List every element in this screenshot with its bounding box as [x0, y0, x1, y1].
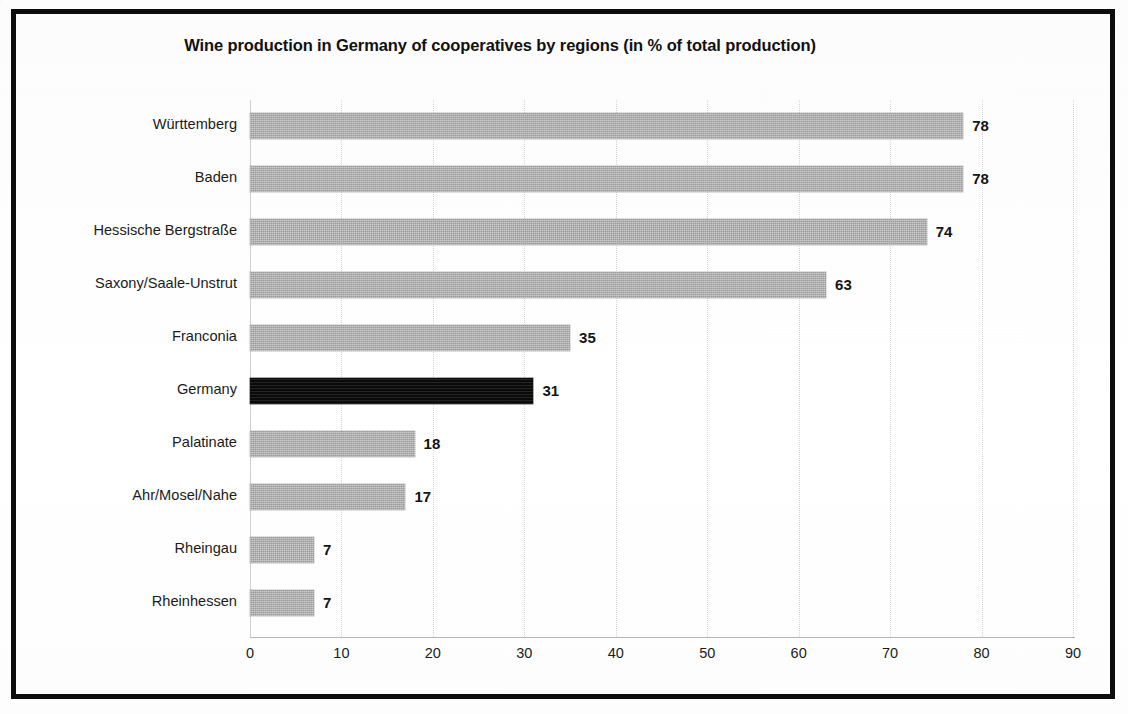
bar-value-label: 74: [936, 223, 953, 240]
bar: [250, 113, 963, 139]
bar: [250, 325, 570, 351]
category-label: Palatinate: [5, 434, 237, 450]
bar: [250, 431, 415, 457]
category-label: Franconia: [5, 328, 237, 344]
bar-value-label: 7: [323, 594, 331, 611]
x-tick-label-90: 90: [1053, 645, 1093, 661]
bar-value-label: 7: [323, 541, 331, 558]
bar-row: Saxony/Saale-Unstrut63: [250, 259, 1073, 312]
category-label: Rheingau: [5, 540, 237, 556]
bar-row: Baden78: [250, 153, 1073, 206]
plot-area: Württemberg78Baden78Hessische Bergstraße…: [250, 100, 1073, 637]
bar-value-label: 17: [414, 488, 431, 505]
bar-row: Rheinhessen7: [250, 577, 1073, 630]
x-tick-label-20: 20: [413, 645, 453, 661]
bar: [250, 219, 927, 245]
category-label: Ahr/Mosel/Nahe: [5, 487, 237, 503]
bar-value-label: 78: [972, 170, 989, 187]
x-tick-label-60: 60: [779, 645, 819, 661]
bar-row: Württemberg78: [250, 100, 1073, 153]
x-tick-label-30: 30: [504, 645, 544, 661]
category-label: Hessische Bergstraße: [5, 222, 237, 238]
category-label: Baden: [5, 169, 237, 185]
bar-row: Franconia35: [250, 312, 1073, 365]
x-tick-label-0: 0: [230, 645, 270, 661]
bar-row: Ahr/Mosel/Nahe17: [250, 471, 1073, 524]
x-tick-label-50: 50: [687, 645, 727, 661]
category-label: Saxony/Saale-Unstrut: [5, 275, 237, 291]
bar: [250, 590, 314, 616]
bar-value-label: 63: [835, 276, 852, 293]
category-label: Württemberg: [5, 116, 237, 132]
bar-row: Hessische Bergstraße74: [250, 206, 1073, 259]
x-tick-label-70: 70: [870, 645, 910, 661]
bar-value-label: 78: [972, 117, 989, 134]
bar: [250, 537, 314, 563]
bar: [250, 484, 405, 510]
chart-title: Wine production in Germany of cooperativ…: [0, 36, 1000, 55]
category-label: Germany: [5, 381, 237, 397]
gridline-90: [1073, 100, 1075, 637]
bar-row: Rheingau7: [250, 524, 1073, 577]
bar-value-label: 35: [579, 329, 596, 346]
bar: [250, 272, 826, 298]
x-tick-label-10: 10: [321, 645, 361, 661]
bar-value-label: 31: [542, 382, 559, 399]
bar: [250, 166, 963, 192]
x-axis-line: [250, 637, 1075, 638]
x-tick-label-80: 80: [962, 645, 1002, 661]
x-tick-label-40: 40: [596, 645, 636, 661]
bar-row: Palatinate18: [250, 418, 1073, 471]
bar-row: Germany31: [250, 365, 1073, 418]
bar-value-label: 18: [424, 435, 441, 452]
category-label: Rheinhessen: [5, 593, 237, 609]
bar: [250, 378, 533, 404]
